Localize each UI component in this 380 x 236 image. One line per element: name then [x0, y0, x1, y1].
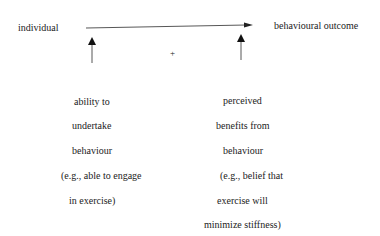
main-path-line — [86, 25, 246, 28]
right-arrowhead-icon — [237, 34, 245, 42]
interaction-plus-sign: + — [170, 47, 175, 59]
right-factor-line-3: behaviour — [223, 145, 263, 157]
left-arrowhead-icon — [88, 37, 96, 45]
right-factor-line-1: perceived — [223, 95, 262, 107]
left-factor-line-3: behaviour — [72, 145, 112, 157]
left-factor-line-4: (e.g., able to engage — [61, 170, 142, 182]
right-factor-line-2: benefits from — [216, 120, 270, 132]
left-factor-line-5: in exercise) — [69, 195, 115, 207]
right-factor-line-5: exercise will — [217, 195, 268, 207]
node-behavioural-outcome: behavioural outcome — [274, 20, 358, 32]
main-arrowhead-icon — [244, 23, 253, 28]
node-individual: individual — [18, 22, 59, 34]
diagram-edges — [0, 0, 380, 236]
left-factor-line-1: ability to — [74, 96, 110, 108]
left-factor-line-2: undertake — [72, 120, 111, 132]
right-factor-line-6: minimize stiffness) — [204, 219, 281, 231]
right-factor-line-4: (e.g., belief that — [220, 170, 283, 182]
